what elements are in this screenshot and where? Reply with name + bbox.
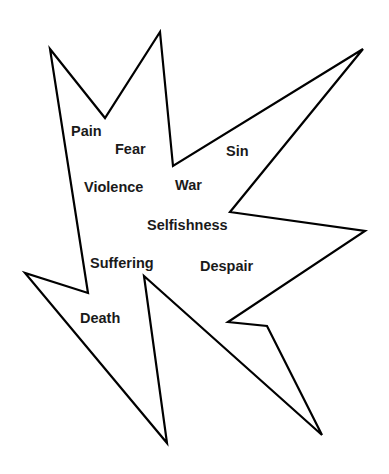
word-fear: Fear: [115, 142, 146, 157]
word-pain: Pain: [71, 124, 102, 139]
word-violence: Violence: [84, 180, 143, 195]
burst-diagram: Pain Fear Sin Violence War Selfishness S…: [0, 0, 389, 474]
word-sin: Sin: [226, 144, 249, 159]
word-war: War: [175, 178, 202, 193]
word-suffering: Suffering: [90, 256, 154, 271]
word-despair: Despair: [200, 259, 253, 274]
word-selfishness: Selfishness: [147, 218, 228, 233]
burst-outline: [0, 0, 389, 474]
word-death: Death: [80, 311, 120, 326]
burst-shape: [25, 32, 365, 443]
